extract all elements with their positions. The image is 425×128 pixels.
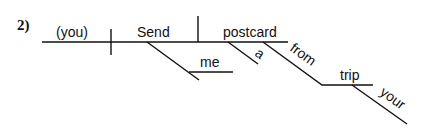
verb-word: Send	[137, 24, 170, 40]
sentence-diagram: 2) (you) Send postcard me a from trip yo…	[0, 0, 425, 128]
problem-number: 2)	[17, 17, 30, 34]
preposition-word: from	[287, 39, 319, 68]
indirect-object-word: me	[200, 54, 220, 70]
article-word: a	[252, 44, 268, 62]
subject-word: (you)	[56, 24, 88, 40]
prep-object-word: trip	[340, 67, 360, 83]
possessive-word: your	[377, 83, 409, 112]
indirect-object-diagonal	[147, 42, 199, 80]
article-diagonal	[228, 42, 258, 64]
direct-object-word: postcard	[223, 24, 277, 40]
